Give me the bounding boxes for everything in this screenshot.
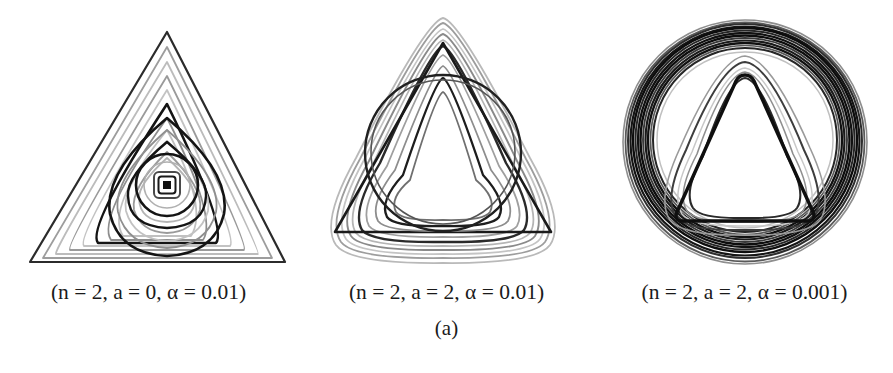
captions-row: (n = 2, a = 0, α = 0.01) (n = 2, a = 2, …	[0, 272, 893, 318]
contour-center-square-filled	[163, 181, 171, 189]
contour-inner-triangle	[676, 75, 814, 221]
panel-3-caption: (n = 2, a = 2, α = 0.001)	[596, 272, 893, 312]
contour-level-15	[671, 62, 818, 230]
panel-1-caption: (n = 2, a = 0, α = 0.01)	[0, 272, 297, 312]
contour-panel-2	[298, 0, 595, 275]
contour-level-4	[353, 40, 534, 246]
contour-level-9	[646, 41, 845, 240]
contour-level-2	[628, 24, 862, 258]
contour-level-13	[139, 158, 195, 222]
contour-level-17	[683, 72, 807, 222]
panels-container	[0, 0, 893, 275]
panel-2-contours	[331, 18, 555, 263]
contour-panel-3	[596, 0, 893, 275]
panel-1-contours	[30, 32, 285, 262]
panel-3-contours	[623, 20, 867, 264]
contour-level-6	[638, 33, 852, 247]
contour-panel-1	[0, 0, 297, 275]
contour-level-16	[678, 68, 812, 226]
contour-level-7	[641, 36, 850, 245]
figure-root: (n = 2, a = 0, α = 0.01) (n = 2, a = 2, …	[0, 0, 893, 373]
panel-2-caption: (n = 2, a = 2, α = 0.01)	[298, 272, 595, 312]
subfigure-label: (a)	[0, 316, 893, 341]
contour-inner-circle	[365, 75, 521, 231]
